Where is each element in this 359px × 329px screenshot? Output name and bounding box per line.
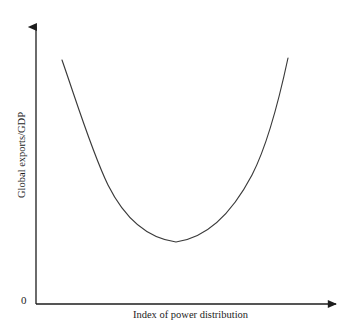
figure-container: 0 Index of power distribution Global exp… <box>0 0 359 329</box>
exports-gdp-curve <box>62 58 288 242</box>
y-axis-title: Global exports/GDP <box>15 85 29 225</box>
x-axis-title: Index of power distribution <box>0 308 359 322</box>
y-axis-origin-label: 0 <box>21 294 27 307</box>
plot-canvas <box>0 0 359 329</box>
